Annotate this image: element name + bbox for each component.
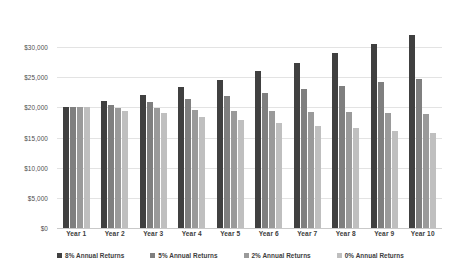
y-axis-tick-label: $15,000 <box>24 134 48 141</box>
bar-group-bars <box>404 17 443 228</box>
bar-group <box>96 17 135 228</box>
bar-group <box>134 17 173 228</box>
bar[interactable] <box>423 114 429 228</box>
bar-group-bars <box>173 17 212 228</box>
bar[interactable] <box>238 120 244 228</box>
x-axis: Year 1Year 2Year 3Year 4Year 5Year 6Year… <box>57 230 442 243</box>
bar[interactable] <box>217 80 223 228</box>
y-axis-tick-label: $5,000 <box>28 194 48 201</box>
bar[interactable] <box>392 131 398 228</box>
legend-item-label: 8% Annual Returns <box>65 252 124 259</box>
bar[interactable] <box>339 86 345 228</box>
x-axis-tick-label: Year 4 <box>173 230 212 237</box>
bar-group-bars <box>57 17 96 228</box>
bar[interactable] <box>84 107 90 228</box>
bar[interactable] <box>378 82 384 228</box>
bar-group <box>211 17 250 228</box>
legend-item[interactable]: 0% Annual Returns <box>337 252 404 259</box>
y-axis-tick-label: $25,000 <box>24 74 48 81</box>
bar-group <box>404 17 443 228</box>
legend-swatch-icon <box>244 253 249 258</box>
x-axis-tick-label: Year 6 <box>250 230 289 237</box>
x-axis-tick-label: Year 2 <box>96 230 135 237</box>
bar[interactable] <box>122 111 128 228</box>
bar-group-bars <box>327 17 366 228</box>
chart-legend: 8% Annual Returns5% Annual Returns2% Ann… <box>0 252 461 259</box>
legend-swatch-icon <box>57 253 62 258</box>
y-axis-tick-label: $0 <box>41 225 48 232</box>
bar[interactable] <box>154 108 160 228</box>
bar[interactable] <box>140 95 146 228</box>
bar[interactable] <box>385 113 391 228</box>
bar[interactable] <box>430 133 436 228</box>
bar[interactable] <box>231 111 237 228</box>
legend-item[interactable]: 8% Annual Returns <box>57 252 124 259</box>
y-axis-tick-label: $10,000 <box>24 164 48 171</box>
bar[interactable] <box>192 110 198 228</box>
bar-group-bars <box>288 17 327 228</box>
bar-group <box>57 17 96 228</box>
legend-item[interactable]: 5% Annual Returns <box>150 252 217 259</box>
x-axis-tick-label: Year 3 <box>134 230 173 237</box>
bar[interactable] <box>371 44 377 228</box>
legend-item-label: 0% Annual Returns <box>345 252 404 259</box>
bar[interactable] <box>199 117 205 228</box>
bar-group <box>365 17 404 228</box>
legend-item-label: 2% Annual Returns <box>252 252 311 259</box>
bar[interactable] <box>108 105 114 228</box>
bar-group <box>327 17 366 228</box>
bar[interactable] <box>409 35 415 228</box>
bar-group-bars <box>96 17 135 228</box>
bar[interactable] <box>276 123 282 229</box>
bar[interactable] <box>161 113 167 228</box>
bar[interactable] <box>101 101 107 228</box>
bar[interactable] <box>315 126 321 228</box>
legend-item-label: 5% Annual Returns <box>158 252 217 259</box>
bar[interactable] <box>77 107 83 228</box>
bar-group <box>173 17 212 228</box>
y-axis-tick-label: $20,000 <box>24 104 48 111</box>
bar-group <box>250 17 289 228</box>
bar[interactable] <box>301 89 307 228</box>
bar[interactable] <box>224 96 230 228</box>
bar-group <box>288 17 327 228</box>
bar-chart: $0$5,000$10,000$15,000$20,000$25,000$30,… <box>0 0 461 270</box>
bar[interactable] <box>185 99 191 228</box>
y-axis-tick-label: $30,000 <box>24 44 48 51</box>
bar[interactable] <box>63 107 69 228</box>
bar-group-bars <box>211 17 250 228</box>
x-axis-tick-label: Year 10 <box>404 230 443 237</box>
bar-group-bars <box>365 17 404 228</box>
bar[interactable] <box>70 107 76 228</box>
x-axis-tick-label: Year 9 <box>365 230 404 237</box>
bar[interactable] <box>115 108 121 228</box>
bar[interactable] <box>269 111 275 228</box>
bar[interactable] <box>147 102 153 228</box>
legend-swatch-icon <box>150 253 155 258</box>
bar[interactable] <box>332 53 338 228</box>
bar[interactable] <box>178 87 184 228</box>
legend-item[interactable]: 2% Annual Returns <box>244 252 311 259</box>
bar[interactable] <box>262 93 268 228</box>
x-axis-tick-label: Year 8 <box>327 230 366 237</box>
x-axis-tick-label: Year 1 <box>57 230 96 237</box>
legend-swatch-icon <box>337 253 342 258</box>
bar[interactable] <box>255 71 261 228</box>
x-axis-tick-label: Year 7 <box>288 230 327 237</box>
bar[interactable] <box>346 112 352 228</box>
gridline <box>57 228 442 229</box>
y-axis: $0$5,000$10,000$15,000$20,000$25,000$30,… <box>0 17 53 228</box>
bar-group-bars <box>134 17 173 228</box>
plot-area <box>57 17 442 228</box>
bar[interactable] <box>294 63 300 228</box>
x-axis-tick-label: Year 5 <box>211 230 250 237</box>
bar[interactable] <box>416 79 422 229</box>
bar[interactable] <box>308 112 314 228</box>
bar-group-bars <box>250 17 289 228</box>
bar[interactable] <box>353 128 359 228</box>
